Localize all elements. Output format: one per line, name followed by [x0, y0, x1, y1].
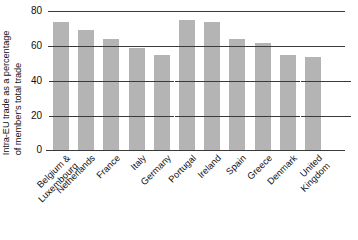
tick-dash-40	[200, 81, 225, 82]
tick-dash-40	[149, 81, 174, 82]
x-axis-labels: Belgium &LuxembourgNetherlandsFranceItal…	[48, 153, 358, 240]
tick-dash-20	[250, 116, 275, 117]
y-tick-label-60: 60	[22, 41, 42, 51]
bar	[78, 30, 94, 151]
y-tick-label-0: 0	[22, 145, 42, 155]
tick-dash-20	[301, 116, 326, 117]
bar	[229, 39, 245, 151]
tick-dash-20	[275, 116, 300, 117]
tick-dash-20	[200, 116, 225, 117]
x-axis-label-line: France	[95, 153, 123, 181]
x-axis-baseline	[46, 150, 345, 151]
tick-dash-20	[149, 116, 174, 117]
tick-dash-20	[124, 116, 149, 117]
y-tick-label-80: 80	[22, 6, 42, 16]
x-axis-label: France	[95, 153, 123, 181]
bar	[154, 55, 170, 151]
bar	[103, 39, 119, 151]
bar	[280, 55, 296, 151]
tick-dash-20	[49, 116, 74, 117]
tick-dash-40	[250, 81, 275, 82]
tick-dash-40	[175, 81, 200, 82]
y-axis-label-line-1: Intra-EU trade as a percentage	[2, 30, 11, 155]
tick-dash-40	[301, 81, 326, 82]
tick-dash-40	[225, 81, 250, 82]
plot-area	[48, 11, 345, 151]
tick-dash-20	[225, 116, 250, 117]
tick-dash-20	[175, 116, 200, 117]
x-axis-label: Italy	[129, 153, 148, 172]
bar	[179, 20, 195, 151]
tick-dash-40	[275, 81, 300, 82]
bar	[53, 22, 69, 152]
x-axis-label: Ireland	[196, 153, 224, 181]
bar-chart: Intra-EU trade as a percentage of member…	[0, 0, 358, 240]
gridline-60	[48, 46, 345, 47]
x-axis-label-line: Italy	[129, 153, 148, 172]
tick-dash-20	[326, 116, 351, 117]
y-tick-label-40: 40	[22, 76, 42, 86]
bar	[305, 57, 321, 152]
tick-dash-40	[124, 81, 149, 82]
tick-dash-40	[326, 81, 351, 82]
tick-dash-40	[74, 81, 99, 82]
x-axis-label-line: Ireland	[196, 153, 224, 181]
bar	[255, 43, 271, 152]
bar	[129, 48, 145, 151]
tick-dash-40	[49, 81, 74, 82]
tick-dash-20	[74, 116, 99, 117]
y-tick-label-20: 20	[22, 111, 42, 121]
bar	[204, 22, 220, 152]
tick-dash-20	[99, 116, 124, 117]
tick-dash-40	[99, 81, 124, 82]
